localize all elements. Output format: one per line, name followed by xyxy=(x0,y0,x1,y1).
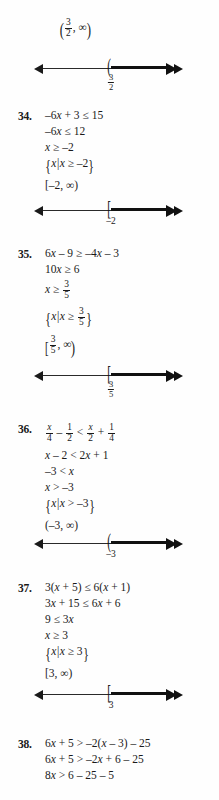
step-line: x > –3 xyxy=(45,482,219,494)
problem-number-36: 36. xyxy=(18,423,32,435)
set-builder-notation: {x|x ≥ –2} xyxy=(45,158,219,175)
interval-notation: [35, ∞) xyxy=(45,335,219,357)
solution-ray xyxy=(111,373,169,376)
fraction-three-fifths: 35 xyxy=(63,280,70,300)
endpoint-label: –3 xyxy=(106,550,116,560)
problem-number-35: 35. xyxy=(18,248,32,260)
endpoint-label: 32 xyxy=(107,73,115,91)
step-line: –6x + 3 ≤ 15 xyxy=(45,110,219,122)
interval-notation: [3, ∞) xyxy=(45,668,219,680)
right-arrowhead-icon-2 xyxy=(174,206,183,216)
step-line: 6x + 5 > –2(x – 3) – 25 xyxy=(45,738,219,750)
fraction-one-half: 12 xyxy=(66,423,73,443)
number-line-partial: ( 32 xyxy=(0,58,219,92)
solution-steps-34: –6x + 3 ≤ 15 –6x ≤ 12 x ≥ –2 {x|x ≥ –2} … xyxy=(45,110,219,196)
right-arrowhead-icon-2 xyxy=(174,64,183,74)
solution-steps-partial: (32, ∞) xyxy=(60,18,219,45)
step-line: x ≥ 35 xyxy=(45,280,219,300)
fraction-x-over-2: x2 xyxy=(87,423,94,443)
step-line: x ≥ 3 xyxy=(45,630,219,642)
fraction-three-halves: 32 xyxy=(65,18,72,38)
left-arrowhead-icon xyxy=(34,64,43,74)
set-builder-notation: {x|x ≥ 35} xyxy=(45,307,219,328)
paren-close: ) xyxy=(86,22,90,40)
paren-open: ( xyxy=(60,22,64,40)
solution-ray xyxy=(111,692,169,695)
left-arrowhead-icon xyxy=(34,690,43,700)
fraction-one-fourth: 14 xyxy=(108,423,115,443)
right-arrowhead-icon-2 xyxy=(174,371,183,381)
interval-notation-partial: (32, ∞) xyxy=(60,18,219,40)
step-line: x ≥ –2 xyxy=(45,142,219,154)
endpoint-label: 35 xyxy=(107,380,115,398)
interval-notation: (–3, ∞) xyxy=(45,520,219,532)
step-line: x – 2 < 2x + 1 xyxy=(45,450,219,462)
solution-steps-38: 6x + 5 > –2(x – 3) – 25 6x + 5 > –2x + 6… xyxy=(45,738,219,786)
solution-steps-35: 6x – 9 ≥ –4x – 3 10x ≥ 6 x ≥ 35 {x|x ≥ 3… xyxy=(45,248,219,365)
step-line: 3(x + 5) ≤ 6(x + 1) xyxy=(45,582,219,594)
step-line: 6x + 5 > –2x + 6 – 25 xyxy=(45,754,219,766)
right-arrowhead-icon-2 xyxy=(174,690,183,700)
solution-steps-37: 3(x + 5) ≤ 6(x + 1) 3x + 15 ≤ 6x + 6 9 ≤… xyxy=(45,582,219,684)
set-builder-notation: {x|x > –3} xyxy=(45,498,219,515)
left-arrowhead-icon xyxy=(34,371,43,381)
solution-ray xyxy=(111,208,169,211)
solution-steps-36: x4 – 12 < x2 + 14 x – 2 < 2x + 1 –3 < x … xyxy=(45,423,219,536)
step-line: x4 – 12 < x2 + 14 xyxy=(45,423,219,443)
number-line-37: [ 3 xyxy=(0,684,219,718)
step-line: 9 ≤ 3x xyxy=(45,614,219,626)
left-arrowhead-icon xyxy=(34,206,43,216)
problem-number-37: 37. xyxy=(18,582,32,594)
solution-ray xyxy=(111,66,169,69)
interval-notation: [–2, ∞) xyxy=(45,180,219,192)
step-line: 8x > 6 – 25 – 5 xyxy=(45,770,219,782)
left-arrowhead-icon xyxy=(34,539,43,549)
endpoint-label: –2 xyxy=(106,217,116,227)
number-line-36: ( –3 xyxy=(0,533,219,567)
fraction-x-over-4: x4 xyxy=(46,423,53,443)
solution-ray xyxy=(111,541,169,544)
step-line: 6x – 9 ≥ –4x – 3 xyxy=(45,248,219,260)
number-line-35: [ 35 xyxy=(0,365,219,399)
step-line: –3 < x xyxy=(45,466,219,478)
problem-number-38: 38. xyxy=(18,738,32,750)
problem-number-34: 34. xyxy=(18,110,32,122)
number-line-34: [ –2 xyxy=(0,200,219,234)
endpoint-label: 3 xyxy=(109,701,114,711)
step-line: 10x ≥ 6 xyxy=(45,264,219,276)
set-builder-notation: {x|x ≥ 3} xyxy=(45,646,219,663)
step-line: 3x + 15 ≤ 6x + 6 xyxy=(45,598,219,610)
answer-key-page: (32, ∞) ( 32 34. –6x + 3 ≤ 15 –6x ≤ 12 x… xyxy=(0,0,219,800)
right-arrowhead-icon-2 xyxy=(174,539,183,549)
step-line: –6x ≤ 12 xyxy=(45,126,219,138)
